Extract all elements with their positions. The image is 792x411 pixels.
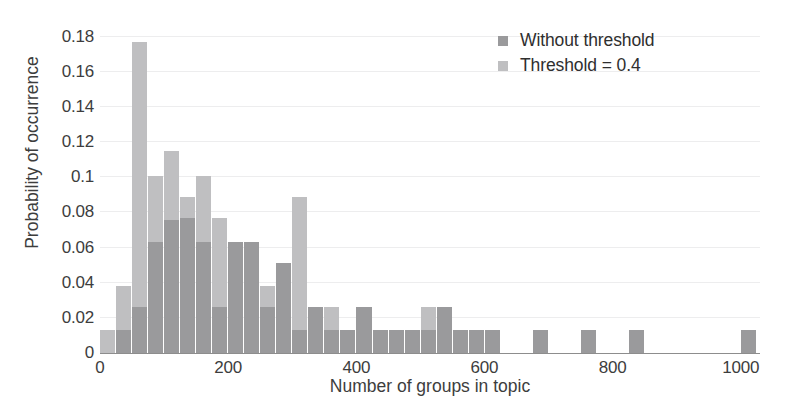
histogram-bar [405, 330, 420, 353]
histogram-bar [453, 330, 468, 353]
y-axis-tick-label: 0.18 [62, 27, 94, 47]
legend-item-label: Without threshold [520, 30, 654, 51]
histogram-bar [324, 330, 339, 353]
chart-legend: Without threshold Threshold = 0.4 [498, 28, 654, 78]
histogram-bar [148, 242, 163, 353]
histogram-figure: Probability of occurrence 00.020.040.060… [0, 0, 792, 411]
histogram-bar [276, 263, 291, 353]
plot-area [100, 28, 760, 353]
histogram-bar [292, 330, 307, 353]
y-axis-tick-label: 0.12 [62, 132, 94, 152]
histogram-bar [485, 330, 500, 353]
histogram-bar [308, 307, 323, 353]
histogram-bar [437, 307, 452, 353]
y-axis-tick-label: 0.02 [62, 308, 94, 328]
histogram-bar [116, 330, 131, 353]
histogram-bar [244, 242, 259, 353]
x-axis-tick-label: 800 [599, 358, 627, 378]
gridline [100, 71, 760, 72]
x-axis-tick-label: 200 [214, 358, 242, 378]
y-axis-tick-label: 0 [85, 343, 94, 363]
x-axis-tick-label: 0 [95, 358, 104, 378]
x-axis-tick-label: 400 [342, 358, 370, 378]
x-axis-line [100, 353, 760, 354]
legend-item-label: Threshold = 0.4 [520, 55, 641, 76]
legend-swatch-icon [498, 36, 508, 46]
histogram-bar [196, 242, 211, 353]
histogram-bar [212, 307, 227, 353]
histogram-bar [100, 330, 115, 353]
histogram-bar [132, 307, 147, 353]
histogram-bar [356, 307, 371, 353]
histogram-bar [180, 218, 195, 353]
histogram-bar [629, 330, 644, 353]
histogram-bar [373, 330, 388, 353]
gridline [100, 141, 760, 142]
legend-swatch-icon [498, 61, 508, 71]
x-axis-tick-label: 600 [471, 358, 499, 378]
legend-item-without-threshold[interactable]: Without threshold [498, 28, 654, 53]
histogram-bar [260, 307, 275, 353]
legend-item-threshold-04[interactable]: Threshold = 0.4 [498, 53, 654, 78]
y-axis-tick-label: 0.04 [62, 273, 94, 293]
y-axis-tick-label: 0.16 [62, 62, 94, 82]
x-axis-tick-label: 1000 [722, 358, 759, 378]
y-axis-tick-label: 0.06 [62, 238, 94, 258]
x-axis-title: Number of groups in topic [100, 376, 760, 397]
gridline [100, 36, 760, 37]
gridline [100, 106, 760, 107]
histogram-bar [581, 330, 596, 353]
histogram-bar [533, 330, 548, 353]
histogram-bar [469, 330, 484, 353]
y-axis-tick-label: 0.1 [71, 167, 94, 187]
histogram-bar [389, 330, 404, 353]
y-axis-tick-label: 0.08 [62, 202, 94, 222]
histogram-bar [228, 242, 243, 353]
histogram-bar [340, 330, 355, 353]
y-axis-tick-label: 0.14 [62, 97, 94, 117]
histogram-bar [164, 220, 179, 354]
y-axis-tick-labels: 00.020.040.060.080.10.120.140.160.18 [0, 28, 94, 353]
histogram-bar [741, 330, 756, 353]
histogram-bar [421, 330, 436, 353]
